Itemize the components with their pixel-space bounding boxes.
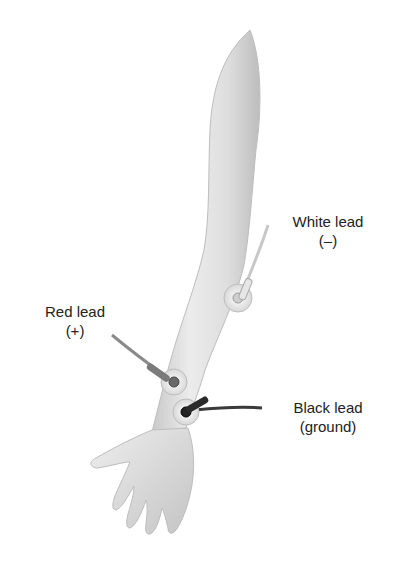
white-lead-label: White lead (–) [272, 212, 384, 250]
white-lead-polarity: (–) [272, 231, 384, 250]
electrode-placement-figure: White lead (–) Red lead (+) Black lead (… [0, 0, 400, 569]
white-lead-name: White lead [272, 212, 384, 231]
arm-illustration [0, 0, 400, 569]
red-lead-polarity: (+) [30, 321, 120, 340]
black-lead-label: Black lead (ground) [270, 398, 386, 436]
black-lead-polarity: (ground) [270, 417, 386, 436]
hand-shape [91, 428, 194, 534]
red-lead-label: Red lead (+) [30, 302, 120, 340]
black-lead-name: Black lead [270, 398, 386, 417]
black-lead-wire [195, 407, 262, 410]
red-lead-name: Red lead [30, 302, 120, 321]
red-lead-snap [169, 377, 179, 387]
